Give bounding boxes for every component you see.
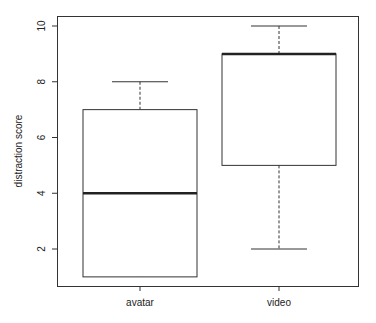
y-axis: 246810 [36,20,58,252]
plot-frame [58,17,359,287]
boxes [83,26,336,277]
y-tick-label: 8 [36,79,47,85]
y-tick-label: 2 [36,246,47,252]
y-axis-label: distraction score [13,114,24,187]
x-tick-label-avatar: avatar [126,297,154,308]
x-tick-label-video: video [267,297,291,308]
boxplot-chart: 246810 avatarvideo distraction score [0,0,376,323]
box-video [222,26,336,249]
box-avatar [83,82,197,277]
y-tick-label: 6 [36,134,47,140]
y-tick-label: 4 [36,190,47,196]
iqr-box [222,54,336,166]
x-axis: avatarvideo [126,287,291,309]
y-tick-label: 10 [36,20,47,32]
